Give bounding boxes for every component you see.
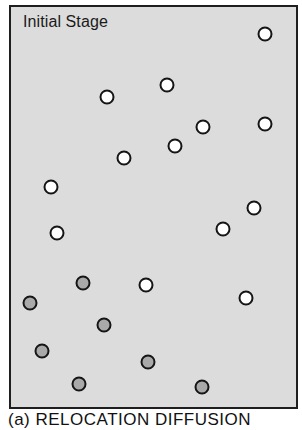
filled-circle-icon <box>36 345 49 358</box>
filled-circle-icon <box>196 381 209 394</box>
empty-circle-icon <box>240 292 253 305</box>
filled-circle-icon <box>98 319 111 332</box>
empty-circle-icon <box>217 223 230 236</box>
empty-circle-icon <box>248 202 261 215</box>
empty-circle-icon <box>51 227 64 240</box>
empty-circle-icon <box>259 118 272 131</box>
empty-circle-icon <box>101 91 114 104</box>
filled-circle-icon <box>77 277 90 290</box>
filled-circle-icon <box>24 297 37 310</box>
empty-circle-icon <box>140 279 153 292</box>
empty-circle-icon <box>259 28 272 41</box>
filled-circle-icon <box>142 356 155 369</box>
empty-circle-icon <box>197 121 210 134</box>
filled-circle-icon <box>73 378 86 391</box>
empty-circle-icon <box>169 140 182 153</box>
empty-circle-icon <box>161 79 174 92</box>
empty-circle-icon <box>45 181 58 194</box>
figure-caption: (a) RELOCATION DIFFUSION <box>8 410 251 430</box>
empty-circle-icon <box>118 152 131 165</box>
